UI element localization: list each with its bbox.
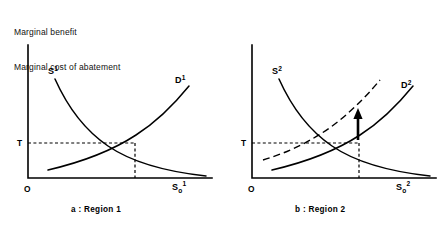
label-x-intercept-region-1: So1 [172,180,186,195]
figure-root: Marginal benefit Marginal cost of abatem… [0,0,446,226]
shift-arrow-region-2 [353,108,362,140]
label-supply-region-2: S2 [272,65,282,76]
diagram-svg: S1 D1 T O So1 a : Region 1 [0,0,446,226]
curve-demand-region-1 [48,86,189,170]
curve-demand-region-2 [272,86,413,170]
label-demand-region-2: D2 [401,79,412,90]
panel-region-1: S1 D1 T O So1 a : Region 1 [17,45,212,214]
label-demand-region-1: D1 [175,74,186,85]
caption-region-1: a : Region 1 [71,205,121,214]
panel-region-2: S2 D2 T O So2 b : Region 2 [241,45,436,214]
label-origin-region-2: O [248,184,255,194]
label-threshold-region-1: T [17,138,23,148]
label-supply-region-1: S1 [48,65,58,76]
label-threshold-region-2: T [241,138,247,148]
shift-arrow-head [353,108,362,119]
label-origin-region-1: O [24,184,31,194]
label-x-intercept-region-2: So2 [396,180,410,195]
caption-region-2: b : Region 2 [295,205,346,214]
curve-demand-shifted-region-2 [263,80,380,160]
